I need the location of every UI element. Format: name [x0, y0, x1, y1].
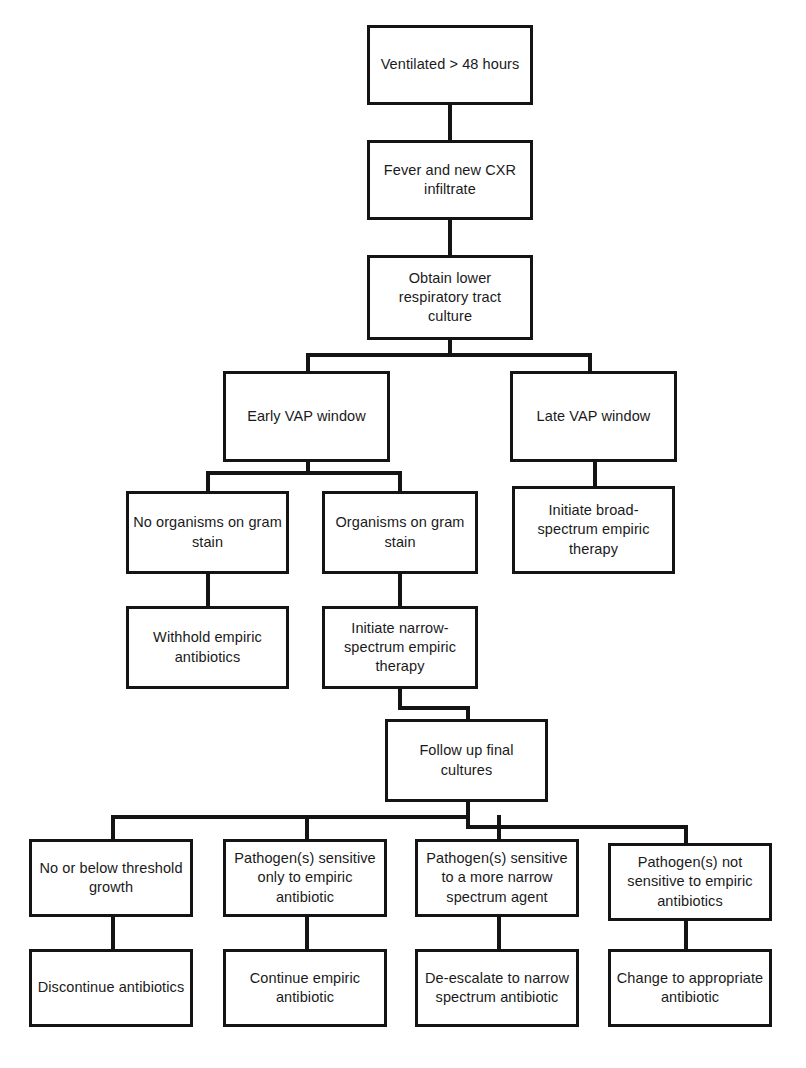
node-change-appropriate[interactable]: Change to appropriate antibiotic [608, 949, 772, 1027]
edge-early-vap-bus [206, 471, 402, 475]
node-late-vap-label: Late VAP window [517, 407, 670, 426]
edge-follow-up-to-not-sensitive [684, 825, 688, 844]
edge-below-threshold-to-discontinue [111, 916, 115, 950]
node-broad-spectrum[interactable]: Initiate broad- spectrum empiric therapy [512, 486, 675, 574]
flowchart-canvas: Ventilated > 48 hours Fever and new CXR … [0, 0, 806, 1068]
node-sensitive-narrow[interactable]: Pathogen(s) sensitive to a more narrow s… [415, 839, 579, 917]
node-broad-spectrum-label: Initiate broad- spectrum empiric therapy [519, 501, 668, 558]
node-early-vap-label: Early VAP window [230, 407, 383, 426]
edge-follow-up-to-below-threshold [111, 815, 115, 840]
edge-narrow-jog-right [398, 706, 470, 710]
node-obtain-culture[interactable]: Obtain lower respiratory tract culture [367, 255, 533, 340]
edge-follow-up-to-sensitive-empiric-only [305, 815, 309, 840]
node-sensitive-empiric-only[interactable]: Pathogen(s) sensitive only to empiric an… [223, 839, 387, 917]
node-organisms[interactable]: Organisms on gram stain [322, 491, 478, 574]
edge-early-vap-to-no-organisms [206, 471, 210, 492]
node-late-vap[interactable]: Late VAP window [510, 371, 677, 462]
edge-organisms-to-narrow [398, 573, 402, 607]
edge-early-vap-to-organisms [398, 471, 402, 492]
edge-not-sensitive-to-change [684, 919, 688, 950]
node-ventilated[interactable]: Ventilated > 48 hours [367, 25, 533, 105]
node-obtain-culture-label: Obtain lower respiratory tract culture [374, 269, 526, 326]
node-withhold[interactable]: Withhold empiric antibiotics [126, 606, 289, 689]
node-withhold-label: Withhold empiric antibiotics [133, 628, 282, 666]
node-change-appropriate-label: Change to appropriate antibiotic [615, 969, 765, 1007]
node-discontinue-label: Discontinue antibiotics [36, 978, 186, 997]
node-ventilated-label: Ventilated > 48 hours [374, 55, 526, 74]
node-below-threshold-label: No or below threshold growth [36, 859, 186, 897]
node-sensitive-empiric-only-label: Pathogen(s) sensitive only to empiric an… [230, 849, 380, 906]
edge-follow-up-bus-left [111, 815, 470, 819]
node-follow-up-label: Follow up final cultures [392, 741, 541, 779]
node-fever-cxr[interactable]: Fever and new CXR infiltrate [367, 140, 533, 220]
node-no-organisms-label: No organisms on gram stain [133, 513, 282, 551]
node-continue-empiric[interactable]: Continue empiric antibiotic [223, 949, 387, 1027]
edge-narrow-to-follow-up [466, 706, 470, 720]
node-not-sensitive[interactable]: Pathogen(s) not sensitive to empiric ant… [608, 843, 772, 921]
edge-sensitive-narrow-to-de-escalate [497, 916, 501, 950]
node-continue-empiric-label: Continue empiric antibiotic [230, 969, 380, 1007]
node-narrow-spectrum[interactable]: Initiate narrow- spectrum empiric therap… [322, 606, 478, 689]
node-narrow-spectrum-label: Initiate narrow- spectrum empiric therap… [329, 619, 471, 676]
edge-culture-to-late-vap [588, 353, 592, 372]
node-de-escalate-label: De-escalate to narrow spectrum antibioti… [422, 969, 572, 1007]
edge-late-vap-to-broad [593, 461, 597, 487]
edge-ventilated-to-fever [448, 104, 452, 142]
edge-fever-to-culture [448, 219, 452, 257]
node-follow-up[interactable]: Follow up final cultures [385, 719, 548, 802]
node-discontinue[interactable]: Discontinue antibiotics [29, 949, 193, 1027]
edge-no-organisms-to-withhold [206, 573, 210, 607]
edge-culture-to-early-vap [306, 353, 310, 372]
edge-follow-up-bus-right [466, 825, 688, 829]
node-sensitive-narrow-label: Pathogen(s) sensitive to a more narrow s… [422, 849, 572, 906]
node-below-threshold[interactable]: No or below threshold growth [29, 839, 193, 917]
node-no-organisms[interactable]: No organisms on gram stain [126, 491, 289, 574]
node-not-sensitive-label: Pathogen(s) not sensitive to empiric ant… [615, 853, 765, 910]
node-fever-cxr-label: Fever and new CXR infiltrate [374, 161, 526, 199]
node-early-vap[interactable]: Early VAP window [223, 371, 390, 462]
node-organisms-label: Organisms on gram stain [329, 513, 471, 551]
edge-culture-bus [306, 353, 592, 357]
node-de-escalate[interactable]: De-escalate to narrow spectrum antibioti… [415, 949, 579, 1027]
edge-sensitive-empiric-only-to-continue [305, 916, 309, 950]
